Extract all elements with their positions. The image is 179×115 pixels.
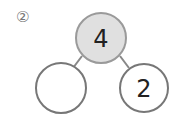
part-circle-left[interactable]	[36, 63, 86, 113]
whole-circle: 4	[76, 13, 126, 63]
whole-value: 4	[93, 25, 108, 53]
number-bond-diagram: 4 2	[0, 0, 179, 115]
part-circle-right: 2	[120, 64, 168, 112]
connector-right	[120, 56, 129, 68]
part-right-value: 2	[136, 75, 151, 103]
